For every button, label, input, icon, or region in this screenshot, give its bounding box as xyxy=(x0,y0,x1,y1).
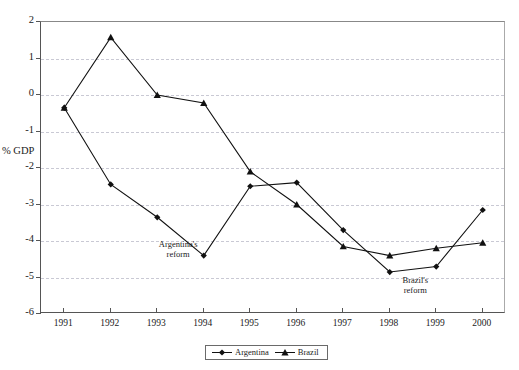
x-tick-label: 1993 xyxy=(133,318,179,328)
series-line-argentina xyxy=(64,108,483,272)
annotation-argentina-reform: Argentina'sreform xyxy=(138,239,218,259)
x-tick-label: 1998 xyxy=(366,318,412,328)
data-point xyxy=(107,34,114,40)
annotation-line-1: Brazil's xyxy=(375,275,455,285)
series-lines xyxy=(41,22,506,314)
legend-entry-brazil[interactable]: Brazil xyxy=(275,347,321,357)
data-point xyxy=(293,201,300,207)
annotation-line-2: reform xyxy=(138,249,218,259)
chart-legend[interactable]: ArgentinaBrazil xyxy=(205,345,328,360)
x-tick-label: 1991 xyxy=(40,318,86,328)
x-tick-label: 2000 xyxy=(459,318,505,328)
legend-marker-diamond-icon xyxy=(212,348,232,357)
legend-marker-triangle-icon xyxy=(275,348,295,357)
y-tick-label: -4 xyxy=(0,234,34,244)
x-tick-label: 1994 xyxy=(180,318,226,328)
y-tick-label: -6 xyxy=(0,307,34,317)
series-line-brazil xyxy=(64,37,483,255)
data-point xyxy=(247,168,254,174)
y-tick-label: 1 xyxy=(0,52,34,62)
chart-figure: % GDP 210-1-2-3-4-5-6 199119921993199419… xyxy=(0,0,519,370)
legend-entry-argentina[interactable]: Argentina xyxy=(212,347,271,357)
data-point xyxy=(479,239,486,245)
data-point xyxy=(247,183,253,189)
legend-label: Brazil xyxy=(298,347,321,357)
x-tick-label: 1996 xyxy=(273,318,319,328)
y-tick-label: -5 xyxy=(0,271,34,281)
x-tick-label: 1999 xyxy=(412,318,458,328)
annotation-brazil-reform: Brazil'sreform xyxy=(375,275,455,295)
y-tick-label: -3 xyxy=(0,198,34,208)
x-tick-label: 1992 xyxy=(87,318,133,328)
x-tick-label: 1995 xyxy=(226,318,272,328)
annotation-line-1: Argentina's xyxy=(138,239,218,249)
y-axis-label: % GDP xyxy=(2,145,34,156)
y-tick-label: 0 xyxy=(0,88,34,98)
y-tick-label: 2 xyxy=(0,15,34,25)
y-tick-label: -2 xyxy=(0,161,34,171)
plot-area: Argentina'sreformBrazil'sreform xyxy=(40,21,505,313)
x-tick-label: 1997 xyxy=(319,318,365,328)
annotation-line-2: reform xyxy=(375,285,455,295)
legend-label: Argentina xyxy=(235,347,271,357)
y-tick-label: -1 xyxy=(0,125,34,135)
